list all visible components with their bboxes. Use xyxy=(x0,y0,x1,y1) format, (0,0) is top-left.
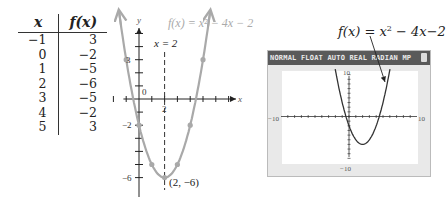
x-axis-label: x xyxy=(237,94,242,104)
y-tick-label-m2: −2 xyxy=(122,120,132,130)
data-point xyxy=(162,175,167,180)
function-label: f(x) = x² − 4x − 2 xyxy=(168,16,253,30)
y-tick-label-m6: −6 xyxy=(122,173,132,183)
data-point xyxy=(175,162,180,167)
data-point xyxy=(200,57,205,62)
data-point xyxy=(149,162,154,167)
curve-arrow-left xyxy=(119,12,121,27)
calculator-window: NORMAL FLOAT AUTO REAL RADIAN MP xyxy=(267,50,431,177)
calculator-screen xyxy=(282,71,418,164)
y-axis-label: y xyxy=(136,15,141,25)
calc-label-suffix: − 4x−2 xyxy=(392,24,446,39)
data-point xyxy=(188,123,193,128)
x-tick-label-2: 2 xyxy=(162,104,167,114)
y-tick-label-3: 3 xyxy=(126,55,131,65)
origin-label: 0 xyxy=(142,87,147,97)
calculator-status-bar: NORMAL FLOAT AUTO REAL RADIAN MP xyxy=(268,51,430,65)
data-point xyxy=(136,123,141,128)
vertex-label: (2, −6) xyxy=(169,176,199,189)
battery-icon xyxy=(421,53,427,62)
status-bar-text: NORMAL FLOAT AUTO REAL RADIAN MP xyxy=(270,54,411,62)
calculator-function-label: f(x) = x2 − 4x−2 xyxy=(338,24,446,39)
axis-of-symmetry-label: x = 2 xyxy=(153,37,178,49)
calc-label-prefix: f(x) = x xyxy=(338,24,387,39)
